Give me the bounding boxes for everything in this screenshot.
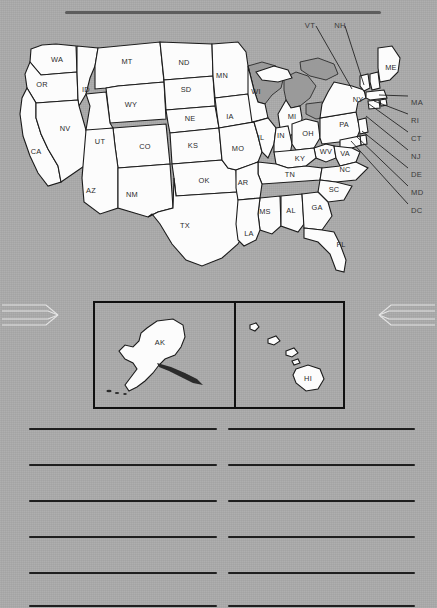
state-label-PA: PA: [339, 120, 349, 129]
state-label-WV: WV: [320, 147, 332, 156]
answer-line-12[interactable]: [228, 605, 415, 607]
alaska-shape: [119, 319, 185, 391]
alaska-inset: AK: [95, 303, 236, 407]
callout-label-NH: NH: [334, 21, 346, 30]
callout-label-DC: DC: [411, 206, 423, 215]
state-label-TX: TX: [180, 221, 190, 230]
state-label-UT: UT: [95, 137, 106, 146]
state-label-FL: FL: [336, 240, 345, 249]
state-label-MT: MT: [121, 57, 132, 66]
callout-label-MA: MA: [411, 98, 424, 107]
state-label-NC: NC: [339, 165, 351, 174]
state-label-OR: OR: [36, 80, 48, 89]
state-label-IL: IL: [258, 133, 265, 142]
state-label-AL: AL: [286, 206, 295, 215]
callout-label-MD: MD: [411, 188, 424, 197]
state-label-SC: SC: [329, 185, 340, 194]
state-label-CO: CO: [139, 142, 151, 151]
answer-line-row: [0, 464, 437, 466]
state-label-OH: OH: [302, 129, 314, 138]
aleutian-islands: [106, 390, 126, 395]
state-label-CA: CA: [31, 147, 42, 156]
answer-line-row: [0, 572, 437, 574]
state-FL: [304, 228, 346, 272]
state-label-WI: WI: [251, 87, 260, 96]
hawaii-islands: [250, 323, 324, 391]
answer-line-11[interactable]: [29, 605, 217, 607]
chevron-left-ornament: [377, 300, 435, 330]
callout-label-RI: RI: [411, 116, 419, 125]
title-rule: [65, 11, 381, 14]
state-label-KY: KY: [295, 154, 305, 163]
state-label-SD: SD: [181, 85, 192, 94]
state-label-MI: MI: [288, 112, 297, 121]
answer-line-1[interactable]: [29, 428, 217, 430]
answer-line-10[interactable]: [228, 572, 415, 574]
answer-line-3[interactable]: [29, 464, 217, 466]
state-label-IA: IA: [226, 112, 233, 121]
callout-label-CT: CT: [411, 134, 422, 143]
state-label-NV: NV: [60, 124, 71, 133]
answer-lines: [0, 424, 437, 608]
callout-label-NJ: NJ: [411, 152, 421, 161]
state-label-ME: ME: [385, 63, 397, 72]
state-label-AZ: AZ: [86, 186, 96, 195]
hawaii-label: HI: [304, 374, 312, 383]
answer-line-8[interactable]: [228, 536, 415, 538]
worksheet-page: WAORIDMTNDMNWISDWYNVUTNEIACACOKSMOILINMI…: [0, 0, 437, 608]
callout-label-DE: DE: [411, 170, 422, 179]
answer-line-row: [0, 500, 437, 502]
state-label-VA: VA: [340, 149, 350, 158]
answer-line-2[interactable]: [228, 428, 415, 430]
chevron-right-ornament: [2, 300, 60, 330]
state-label-WY: WY: [125, 100, 137, 109]
state-label-GA: GA: [311, 203, 322, 212]
answer-line-row: [0, 428, 437, 430]
aleutian-tail: [157, 363, 203, 385]
map-container: WAORIDMTNDMNWISDWYNVUTNEIACACOKSMOILINMI…: [0, 18, 437, 288]
answer-line-7[interactable]: [29, 536, 217, 538]
state-LA: [236, 198, 260, 246]
state-label-NE: NE: [185, 114, 196, 123]
state-label-TN: TN: [285, 170, 295, 179]
state-label-MN: MN: [216, 71, 228, 80]
state-label-AR: AR: [238, 178, 249, 187]
answer-line-4[interactable]: [228, 464, 415, 466]
answer-line-6[interactable]: [228, 500, 415, 502]
answer-line-9[interactable]: [29, 572, 217, 574]
state-label-IN: IN: [277, 131, 285, 140]
callout-label-VT: VT: [305, 21, 315, 30]
state-label-KS: KS: [188, 141, 198, 150]
state-label-MO: MO: [232, 144, 244, 153]
state-label-WA: WA: [51, 55, 63, 64]
answer-line-row: [0, 536, 437, 538]
hawaii-inset: HI: [236, 303, 343, 407]
alaska-label: AK: [155, 338, 165, 347]
state-label-LA: LA: [244, 229, 253, 238]
state-label-ND: ND: [178, 58, 189, 67]
answer-line-row: [0, 605, 437, 607]
state-label-OK: OK: [198, 176, 209, 185]
answer-line-5[interactable]: [29, 500, 217, 502]
inset-boxes: AK HI: [93, 301, 345, 409]
state-label-NM: NM: [126, 190, 138, 199]
state-label-MS: MS: [259, 207, 271, 216]
callout-leaders-right: [351, 95, 408, 204]
state-label-ID: ID: [82, 85, 90, 94]
state-label-NY: NY: [353, 95, 364, 104]
